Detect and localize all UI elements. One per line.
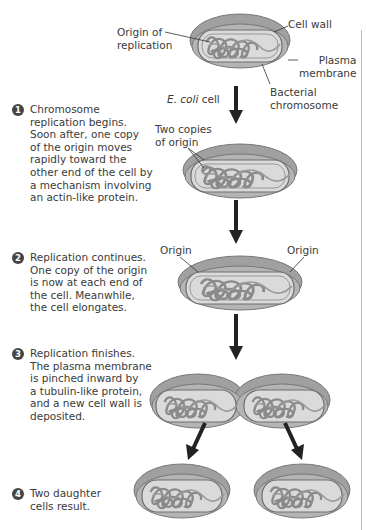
label-cell-wall: Cell wall <box>288 18 332 31</box>
daughter-cell-left <box>134 464 230 518</box>
daughter-cell-right <box>254 464 350 518</box>
step-number-badge: 3 <box>12 348 24 360</box>
label-bacterial-chromosome: Bacterial chromosome <box>270 86 338 111</box>
label-origin-left: Origin <box>160 244 192 257</box>
label-plasma-membrane: Plasma membrane <box>299 54 356 79</box>
label-origin-of-replication: Origin of replication <box>117 26 172 51</box>
label-two-copies-of-origin: Two copies of origin <box>155 123 212 148</box>
step-3: 3 Replication finishes. The plasma membr… <box>12 347 152 423</box>
step-description: Chromosome replication begins. Soon afte… <box>30 103 153 204</box>
label-ecoli-cell: E. coli cell <box>167 93 220 106</box>
step-number-badge: 2 <box>12 252 24 264</box>
label-origin-right: Origin <box>287 244 319 257</box>
step-2: 2 Replication continues. One copy of the… <box>12 251 147 314</box>
ecoli-cell-step3-dividing <box>150 374 330 428</box>
step-description: Replication finishes. The plasma membran… <box>30 347 152 423</box>
step-number-badge: 4 <box>12 488 24 500</box>
step-number-badge: 1 <box>12 104 24 116</box>
ecoli-cell-step2 <box>178 256 302 310</box>
ecoli-cell-step1 <box>183 144 297 198</box>
step-4: 4 Two daughter cells result. <box>12 487 101 512</box>
step-description: Two daughter cells result. <box>30 487 101 512</box>
step-1: 1 Chromosome replication begins. Soon af… <box>12 103 153 204</box>
step-description: Replication continues. One copy of the o… <box>30 251 147 314</box>
